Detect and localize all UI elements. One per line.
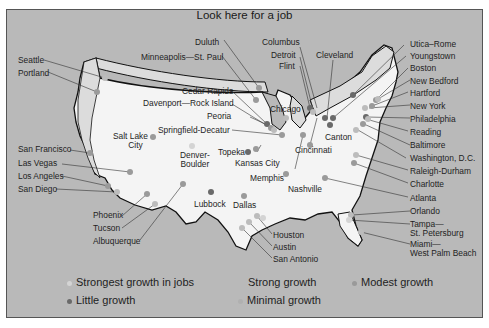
label-philadelphia: Philadelphia bbox=[410, 115, 456, 124]
label-memphis: Memphis bbox=[250, 174, 284, 183]
label-cleveland: Cleveland bbox=[316, 51, 353, 60]
label-detroit: Detroit bbox=[271, 51, 296, 60]
legend-minimal-label: Minimal growth bbox=[247, 294, 321, 306]
label-chicago: Chicago bbox=[270, 105, 301, 114]
label-cedar-rapids: Cedar Rapids bbox=[182, 87, 233, 96]
legend-little: Little growth bbox=[67, 294, 135, 306]
label-hartford: Hartford bbox=[410, 89, 440, 98]
label-canton: Canton bbox=[325, 133, 352, 142]
label-dallas: Dallas bbox=[233, 201, 256, 210]
label-salt-lake-city: Salt LakeCity bbox=[113, 132, 148, 150]
label-houston: Houston bbox=[273, 231, 304, 240]
legend-little-label: Little growth bbox=[76, 294, 135, 306]
label-san-francisco: San Francisco bbox=[18, 145, 72, 154]
label-austin: Austin bbox=[273, 243, 296, 252]
label-san-diego: San Diego bbox=[18, 185, 57, 194]
label-miami: Miami—West Palm Beach bbox=[410, 240, 476, 258]
legend-minimal: Minimal growth bbox=[238, 294, 321, 306]
label-san-antonio: San Antonio bbox=[273, 255, 318, 264]
legend-strongest: Strongest growth in jobs bbox=[67, 276, 194, 288]
label-tampa-line2: St. Petersburg bbox=[410, 228, 464, 238]
map-title: Look here for a job bbox=[0, 9, 489, 21]
label-minneapolis: Minneapolis—St. Paul bbox=[141, 53, 223, 62]
label-denver-boulder: Denver-Boulder bbox=[180, 151, 210, 169]
label-phoenix: Phoenix bbox=[93, 211, 123, 220]
legend-dot-minimal-icon bbox=[238, 299, 243, 304]
label-lubbock: Lubbock bbox=[194, 200, 226, 209]
label-new-bedford: New Bedford bbox=[410, 77, 458, 86]
label-las-vegas: Las Vegas bbox=[18, 159, 57, 168]
legend-dot-modest-icon bbox=[352, 281, 357, 286]
label-salt-lake-city-line2: City bbox=[118, 140, 142, 150]
label-columbus: Columbus bbox=[262, 38, 300, 47]
label-charlotte: Charlotte bbox=[410, 180, 444, 189]
label-tampa: Tampa—St. Petersburg bbox=[410, 220, 464, 238]
legend-strongest-label: Strongest growth in jobs bbox=[76, 276, 194, 288]
label-cincinnati: Cincinnati bbox=[295, 146, 332, 155]
label-miami-line2: West Palm Beach bbox=[410, 248, 476, 258]
label-davenport: Davenport—Rock Island bbox=[143, 99, 234, 108]
label-utica-rome: Utica–Rome bbox=[410, 40, 456, 49]
label-nashville: Nashville bbox=[288, 185, 322, 194]
label-denver-line2: Boulder bbox=[180, 159, 209, 169]
label-tucson: Tucson bbox=[93, 224, 120, 233]
label-seattle: Seattle bbox=[18, 56, 44, 65]
label-youngstown: Youngstown bbox=[410, 52, 455, 61]
label-baltimore: Baltimore bbox=[410, 141, 445, 150]
legend-strong-label: Strong growth bbox=[248, 276, 316, 288]
label-portland: Portland bbox=[18, 69, 49, 78]
label-raleigh-durham: Raleigh-Durham bbox=[410, 167, 471, 176]
label-kansas-city: Kansas City bbox=[235, 159, 280, 168]
legend-dot-little-icon bbox=[67, 299, 72, 304]
label-springfield: Springfield-Decatur bbox=[158, 126, 230, 135]
label-boston: Boston bbox=[410, 64, 436, 73]
label-atlanta: Atlanta bbox=[410, 194, 436, 203]
label-flint: Flint bbox=[279, 62, 295, 71]
legend-strong: Strong growth bbox=[248, 276, 316, 288]
label-topeka: Topeka bbox=[218, 148, 245, 157]
label-washington-dc: Washington, D.C. bbox=[410, 154, 475, 163]
legend-modest-label: Modest growth bbox=[361, 276, 433, 288]
label-reading: Reading bbox=[410, 128, 441, 137]
label-albuquerque: Albuquerque bbox=[93, 237, 141, 246]
label-peoria: Peoria bbox=[207, 112, 231, 121]
legend-modest: Modest growth bbox=[352, 276, 433, 288]
legend-dot-strongest-icon bbox=[67, 281, 72, 286]
label-los-angeles: Los Angeles bbox=[18, 172, 64, 181]
label-orlando: Orlando bbox=[410, 207, 440, 216]
label-duluth: Duluth bbox=[195, 38, 219, 47]
label-new-york: New York bbox=[410, 102, 445, 111]
